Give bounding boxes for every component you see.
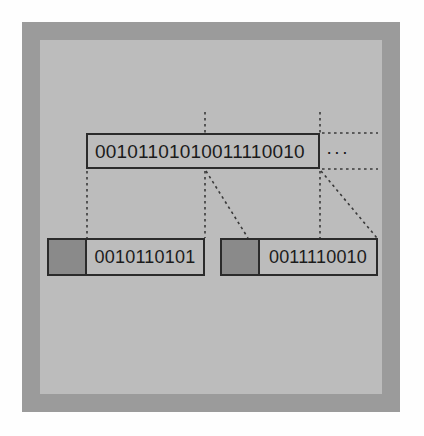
bit-stream-text: 00101101010011110010	[95, 142, 305, 161]
packet-right-header-cell	[222, 240, 260, 274]
packet-left: 0010110101	[47, 238, 205, 276]
diagram-figure: 00101101010011110010 ··· 0010110101 0011…	[0, 0, 424, 436]
diagram-frame	[22, 22, 400, 412]
packet-right: 0011110010	[220, 238, 378, 276]
packet-left-header-cell	[49, 240, 87, 274]
packet-left-payload: 0010110101	[87, 248, 203, 266]
packet-right-payload: 0011110010	[260, 248, 376, 266]
diagram-canvas	[40, 40, 382, 394]
bit-stream-box: 00101101010011110010	[86, 133, 320, 169]
bit-stream-continuation: ···	[326, 142, 349, 161]
